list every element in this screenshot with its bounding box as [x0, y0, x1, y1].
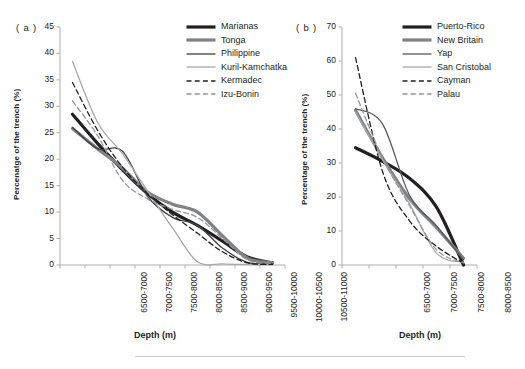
- figure-container: ( a ) Percenatge of the trench (%) 05101…: [0, 0, 525, 369]
- legend-swatch-icon: [402, 62, 432, 72]
- legend-swatch-icon: [402, 76, 432, 86]
- legend-swatch-icon: [186, 35, 216, 45]
- series-line: [73, 114, 273, 263]
- series-line: [73, 83, 273, 265]
- legend-item[interactable]: Cayman: [402, 74, 491, 88]
- legend-swatch-icon: [402, 49, 432, 59]
- legend-item[interactable]: New Britain: [402, 34, 491, 48]
- legend-swatch-icon: [402, 22, 432, 32]
- legend-label: Tonga: [221, 36, 246, 45]
- panel-a-legend: MarianasTongaPhilippineKuril-KamchatkaKe…: [186, 20, 287, 101]
- legend-label: Kermadec: [221, 76, 262, 85]
- legend-item[interactable]: Kermadec: [186, 74, 287, 88]
- panel-b-x-axis-title: Depth (m): [365, 330, 475, 340]
- legend-item[interactable]: Izu-Bonin: [186, 88, 287, 102]
- legend-item[interactable]: Puerto-Rico: [402, 20, 491, 34]
- legend-label: Marianas: [221, 22, 258, 31]
- legend-swatch-icon: [186, 62, 216, 72]
- legend-item[interactable]: Kuril-Kamchatka: [186, 61, 287, 75]
- series-line: [73, 101, 273, 263]
- legend-swatch-icon: [186, 49, 216, 59]
- legend-item[interactable]: Philippine: [186, 47, 287, 61]
- legend-label: Puerto-Rico: [437, 22, 485, 31]
- legend-label: Cayman: [437, 76, 471, 85]
- legend-swatch-icon: [186, 89, 216, 99]
- legend-item[interactable]: San Cristobal: [402, 61, 491, 75]
- legend-item[interactable]: Tonga: [186, 34, 287, 48]
- legend-swatch-icon: [402, 89, 432, 99]
- legend-label: Yap: [437, 49, 452, 58]
- panel-a-x-axis-title: Depth (m): [100, 330, 210, 340]
- panel-b-legend: Puerto-RicoNew BritainYapSan CristobalCa…: [402, 20, 491, 101]
- legend-label: New Britain: [437, 36, 483, 45]
- legend-item[interactable]: Marianas: [186, 20, 287, 34]
- legend-item[interactable]: Yap: [402, 47, 491, 61]
- panel-a: ( a ) Percenatge of the trench (%) 05101…: [0, 0, 290, 340]
- legend-item[interactable]: Palau: [402, 88, 491, 102]
- legend-swatch-icon: [186, 22, 216, 32]
- legend-swatch-icon: [186, 76, 216, 86]
- legend-label: Izu-Bonin: [221, 90, 259, 99]
- caption-separator-rule: [135, 356, 465, 357]
- legend-label: Kuril-Kamchatka: [221, 63, 287, 72]
- legend-label: Palau: [437, 90, 460, 99]
- legend-swatch-icon: [402, 35, 432, 45]
- legend-label: San Cristobal: [437, 63, 491, 72]
- panel-b: ( b ) Percentage of the trench (%) 01020…: [290, 0, 525, 340]
- legend-label: Philippine: [221, 49, 260, 58]
